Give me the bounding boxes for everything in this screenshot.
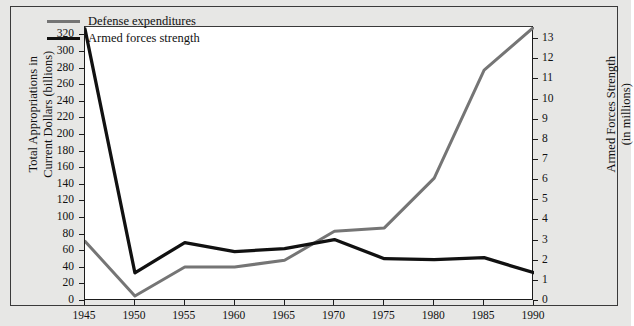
x-tick-mark	[383, 300, 384, 305]
x-tick-mark	[84, 300, 85, 305]
chart-lines	[85, 27, 534, 301]
x-tick-label: 1980	[411, 310, 455, 322]
left-tick-label: 180	[28, 145, 74, 157]
right-tick-label: 0	[542, 294, 572, 306]
left-tick-mark	[79, 134, 84, 135]
left-tick-label: 100	[28, 211, 74, 223]
right-tick-label: 7	[542, 153, 572, 165]
legend-swatch-armed-forces-strength	[47, 37, 80, 40]
x-tick-label: 1985	[461, 310, 505, 322]
legend-item: Armed forces strength	[47, 30, 200, 47]
left-tick-mark	[79, 200, 84, 201]
left-tick-label: 280	[28, 62, 74, 74]
x-tick-mark	[184, 300, 185, 305]
left-tick-label: 60	[28, 244, 74, 256]
x-tick-label: 1960	[212, 310, 256, 322]
right-tick-label: 6	[542, 173, 572, 185]
left-tick-mark	[79, 68, 84, 69]
right-tick-mark	[533, 179, 538, 180]
right-tick-label: 13	[542, 32, 572, 44]
left-tick-label: 0	[28, 294, 74, 306]
right-tick-mark	[533, 199, 538, 200]
x-tick-label: 1975	[361, 310, 405, 322]
right-tick-label: 9	[542, 113, 572, 125]
x-tick-label: 1945	[62, 310, 106, 322]
left-tick-label: 120	[28, 194, 74, 206]
left-tick-mark	[79, 283, 84, 284]
right-axis-title: Armed Forces Strength (in millions)	[604, 14, 634, 214]
right-tick-label: 11	[542, 72, 572, 84]
legend-label-defense-expenditures: Defense expenditures	[88, 15, 196, 28]
left-tick-label: 20	[28, 277, 74, 289]
legend-item: Defense expenditures	[47, 13, 200, 30]
right-tick-mark	[533, 139, 538, 140]
x-tick-label: 1950	[112, 310, 156, 322]
right-tick-mark	[533, 260, 538, 261]
right-tick-label: 5	[542, 193, 572, 205]
left-tick-mark	[79, 184, 84, 185]
x-tick-label: 1970	[311, 310, 355, 322]
right-tick-mark	[533, 219, 538, 220]
right-tick-label: 4	[542, 213, 572, 225]
right-tick-mark	[533, 38, 538, 39]
left-tick-label: 220	[28, 111, 74, 123]
left-tick-label: 80	[28, 228, 74, 240]
x-tick-mark	[134, 300, 135, 305]
right-tick-label: 1	[542, 274, 572, 286]
right-tick-label: 3	[542, 234, 572, 246]
right-tick-mark	[533, 119, 538, 120]
left-tick-label: 200	[28, 128, 74, 140]
legend: Defense expenditures Armed forces streng…	[47, 13, 200, 47]
series-line-defense-expenditures	[85, 27, 534, 296]
right-tick-mark	[533, 159, 538, 160]
left-tick-label: 240	[28, 95, 74, 107]
right-tick-mark	[533, 240, 538, 241]
right-tick-mark	[533, 58, 538, 59]
x-tick-mark	[483, 300, 484, 305]
right-tick-mark	[533, 78, 538, 79]
right-tick-mark	[533, 99, 538, 100]
left-tick-mark	[79, 167, 84, 168]
series-line-armed-forces-strength	[85, 29, 534, 273]
left-tick-mark	[79, 84, 84, 85]
left-tick-mark	[79, 151, 84, 152]
right-tick-mark	[533, 280, 538, 281]
right-tick-label: 10	[542, 93, 572, 105]
x-tick-label: 1990	[511, 310, 555, 322]
right-axis-title-line1: Armed Forces Strength	[604, 14, 619, 214]
left-tick-label: 260	[28, 78, 74, 90]
left-tick-mark	[79, 234, 84, 235]
right-axis-title-line2: (in millions)	[619, 14, 634, 214]
right-tick-label: 8	[542, 133, 572, 145]
left-tick-mark	[79, 267, 84, 268]
x-tick-mark	[433, 300, 434, 305]
x-tick-mark	[533, 300, 534, 305]
x-tick-label: 1955	[162, 310, 206, 322]
x-tick-mark	[234, 300, 235, 305]
left-tick-mark	[79, 51, 84, 52]
left-tick-mark	[79, 101, 84, 102]
x-tick-mark	[333, 300, 334, 305]
left-tick-label: 160	[28, 161, 74, 173]
left-tick-mark	[79, 117, 84, 118]
left-tick-label: 40	[28, 261, 74, 273]
right-tick-label: 12	[542, 52, 572, 64]
x-tick-label: 1965	[262, 310, 306, 322]
left-tick-label: 140	[28, 178, 74, 190]
legend-swatch-defense-expenditures	[47, 20, 80, 23]
plot-area	[84, 26, 533, 300]
x-tick-mark	[284, 300, 285, 305]
right-tick-label: 2	[542, 254, 572, 266]
left-tick-mark	[79, 250, 84, 251]
legend-label-armed-forces-strength: Armed forces strength	[88, 32, 200, 45]
left-tick-mark	[79, 217, 84, 218]
figure-frame: Total Appropriations in Current Dollars …	[10, 6, 618, 306]
